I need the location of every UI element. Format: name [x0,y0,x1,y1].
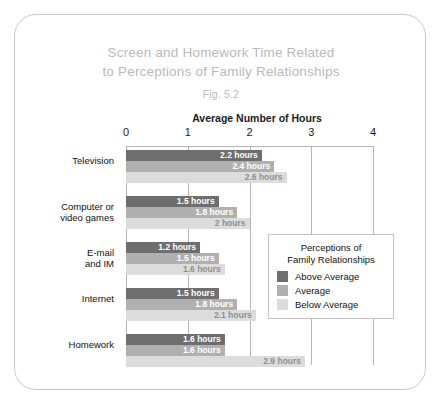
category-label-line: Homework [69,339,114,351]
x-tick-label-3: 3 [308,126,314,138]
figure-frame: Screen and Homework Time Related to Perc… [14,14,426,390]
legend-entry-label: Above Average [295,271,359,282]
bar-value-label: 2.1 hours [214,310,256,321]
bar-value-label: 1.8 hours [195,299,237,310]
legend-swatch-icon [277,285,288,296]
bar-row: 2.2 hours [126,150,373,161]
category-label: Television [72,155,114,167]
bar-row: 1.5 hours [126,196,373,207]
bar-value-label: 1.6 hours [183,345,225,356]
bar-value-label: 2.9 hours [263,356,305,367]
bar-row: 2 hours [126,218,373,229]
bar-group: Computer orvideo games1.5 hours1.8 hours… [126,196,373,229]
bar-row: 2.4 hours [126,161,373,172]
category-label-line: Television [72,155,114,167]
category-label: Internet [82,293,114,305]
category-label: Homework [69,339,114,351]
bar-group: Television2.2 hours2.4 hours2.6 hours [126,150,373,183]
bar-value-label: 1.5 hours [177,253,219,264]
legend-entry-label: Average [295,285,330,296]
bar-row: 1.6 hours [126,334,373,345]
figure-title-line-1: Screen and Homework Time Related [15,43,427,62]
bar-row: 2.9 hours [126,356,373,367]
x-axis-title: Average Number of Hours [126,112,388,124]
chart-legend: Perceptions of Family Relationships Abov… [268,234,394,319]
bar-group: Homework1.6 hours1.6 hours2.9 hours [126,334,373,367]
legend-entries: Above AverageAverageBelow Average [277,271,385,310]
category-label: Computer orvideo games [60,201,114,224]
bar-value-label: 1.2 hours [158,242,200,253]
bar-value-label: 1.5 hours [177,288,219,299]
legend-title-line-1: Perceptions of [277,242,385,254]
bar-row: 1.6 hours [126,345,373,356]
bar-value-label: 1.6 hours [183,334,225,345]
category-label-line: E-mail [85,247,114,259]
bar-row: 1.8 hours [126,207,373,218]
category-label: E-mailand IM [85,247,114,270]
bar-value-label: 2.6 hours [245,172,287,183]
legend-title-line-2: Family Relationships [277,254,385,266]
bar-value-label: 1.6 hours [183,264,225,275]
category-label-line: and IM [85,258,114,270]
bar-value-label: 1.8 hours [195,207,237,218]
legend-entry[interactable]: Average [277,285,385,296]
legend-entry[interactable]: Above Average [277,271,385,282]
x-tick-label-2: 2 [246,126,252,138]
x-tick-label-1: 1 [185,126,191,138]
bar-row: 2.6 hours [126,172,373,183]
category-label-line: Computer or [60,201,114,213]
legend-swatch-icon [277,271,288,282]
bar-value-label: 2.4 hours [232,161,274,172]
bar-value-label: 1.5 hours [177,196,219,207]
figure-number: Fig. 5.2 [15,88,427,100]
category-label-line: Internet [82,293,114,305]
bar-value-label: 2.2 hours [220,150,262,161]
legend-title: Perceptions of Family Relationships [277,242,385,266]
bar-value-label: 2 hours [215,218,250,229]
legend-swatch-icon [277,299,288,310]
figure-title-block: Screen and Homework Time Related to Perc… [15,43,427,100]
legend-entry[interactable]: Below Average [277,299,385,310]
x-tick-label-4: 4 [370,126,376,138]
x-tick-label-0: 0 [123,126,129,138]
figure-title-line-2: to Perceptions of Family Relationships [15,62,427,81]
category-label-line: video games [60,212,114,224]
legend-entry-label: Below Average [295,299,358,310]
